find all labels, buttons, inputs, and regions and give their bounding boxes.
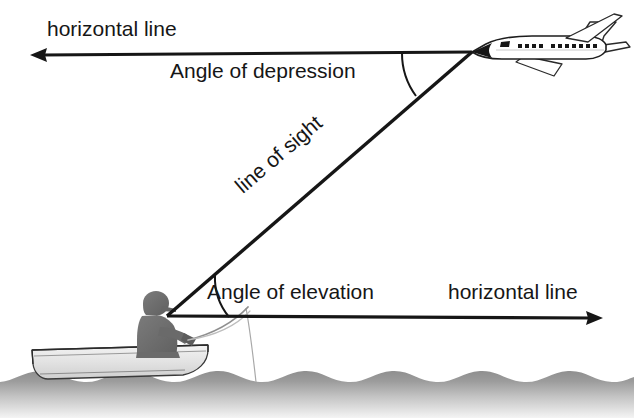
bottom-horizontal-ray [167, 311, 603, 325]
fishing-line-icon [246, 308, 256, 382]
label-angle-of-elevation: Angle of elevation [207, 281, 374, 302]
angle-depression-arc [402, 53, 416, 96]
fishing-rod-icon [188, 307, 250, 340]
label-horizontal-line-top: horizontal line [47, 18, 177, 39]
label-angle-of-depression: Angle of depression [170, 60, 356, 81]
label-horizontal-line-bottom: horizontal line [448, 281, 578, 302]
line-of-sight-ray [167, 52, 472, 316]
rowboat-icon [32, 345, 208, 379]
airplane-icon [472, 14, 630, 76]
angle-of-elevation-depression-diagram: horizontal line Angle of depression line… [0, 0, 634, 418]
